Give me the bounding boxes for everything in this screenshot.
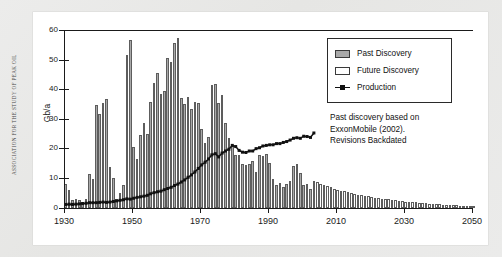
x-tick-mark (200, 208, 201, 213)
x-tick-label: 2030 (384, 216, 424, 226)
bar-future-discovery (333, 189, 336, 208)
bar-past-discovery (180, 98, 183, 208)
bar-future-discovery (313, 181, 316, 208)
bar-future-discovery (377, 198, 380, 208)
bar-future-discovery (384, 199, 387, 208)
bar-past-discovery (214, 84, 217, 208)
bar-past-discovery (299, 173, 302, 208)
bar-future-discovery (353, 194, 356, 208)
bar-past-discovery (241, 164, 244, 208)
legend-swatch-future-discovery (335, 67, 350, 75)
bar-future-discovery (357, 195, 360, 208)
bar-future-discovery (381, 199, 384, 208)
bar-past-discovery (231, 146, 234, 208)
bar-past-discovery (183, 104, 186, 208)
bar-future-discovery (323, 185, 326, 208)
bar-past-discovery (306, 184, 309, 208)
x-tick-mark (268, 208, 269, 213)
bar-past-discovery (200, 129, 203, 208)
bar-past-discovery (163, 91, 166, 208)
bar-future-discovery (360, 195, 363, 208)
y-tick-mark (59, 178, 69, 179)
annotation-line-3: Revisions Backdated (330, 135, 460, 147)
bar-past-discovery (129, 40, 132, 208)
bar-past-discovery (211, 85, 214, 208)
bar-future-discovery (336, 190, 339, 208)
legend-label-future-discovery: Future Discovery (357, 66, 419, 75)
x-tick-label: 1990 (248, 216, 288, 226)
x-tick-mark (132, 208, 133, 213)
bar-past-discovery (156, 73, 159, 208)
y-tick-mark (59, 60, 69, 61)
bar-past-discovery (234, 155, 237, 208)
annotation-line-2: ExxonMobile (2002). (330, 124, 460, 136)
source-annotation: Past discovery based on ExxonMobile (200… (330, 112, 460, 147)
bar-past-discovery (309, 189, 312, 208)
bar-past-discovery (275, 185, 278, 208)
bar-past-discovery (78, 200, 81, 208)
bar-future-discovery (350, 193, 353, 208)
bar-future-discovery (343, 191, 346, 208)
bar-past-discovery (238, 155, 241, 208)
legend-item-past-discovery: Past Discovery (335, 45, 444, 62)
bar-past-discovery (146, 134, 149, 208)
bar-past-discovery (248, 164, 251, 208)
bar-past-discovery (177, 38, 180, 208)
bar-past-discovery (272, 179, 275, 208)
x-tick-mark (404, 208, 405, 213)
x-tick-label: 1930 (44, 216, 84, 226)
bar-past-discovery (289, 181, 292, 208)
bar-past-discovery (115, 199, 118, 208)
y-axis-title: Gb/a (42, 93, 52, 133)
bar-future-discovery (330, 187, 333, 208)
bar-past-discovery (224, 123, 227, 208)
bar-past-discovery (149, 102, 152, 208)
bar-past-discovery (122, 185, 125, 208)
legend: Past Discovery Future Discovery Producti… (327, 38, 452, 103)
x-tick-label: 1950 (112, 216, 152, 226)
y-tick-mark (59, 148, 69, 149)
bar-future-discovery (326, 186, 329, 208)
y-tick-mark (59, 119, 69, 120)
chart-figure: ASSOCIATION FOR THE STUDY OF PEAK OIL 01… (0, 0, 502, 257)
bar-past-discovery (170, 62, 173, 208)
bar-past-discovery (126, 55, 129, 208)
bar-past-discovery (166, 58, 169, 208)
bar-past-discovery (279, 183, 282, 208)
bar-past-discovery (95, 105, 98, 208)
x-tick-mark (472, 208, 473, 213)
bar-past-discovery (143, 123, 146, 208)
bar-past-discovery (119, 193, 122, 208)
bar-future-discovery (367, 196, 370, 208)
bar-past-discovery (105, 99, 108, 208)
x-tick-label: 2050 (452, 216, 492, 226)
bar-past-discovery (68, 190, 71, 208)
legend-swatch-production (335, 84, 350, 92)
bar-past-discovery (160, 94, 163, 208)
bar-past-discovery (296, 164, 299, 208)
bar-past-discovery (258, 155, 261, 208)
y-tick-mark (59, 30, 69, 31)
legend-label-past-discovery: Past Discovery (357, 49, 412, 58)
legend-item-production: Production (335, 79, 444, 96)
y-tick-label: 60 (36, 25, 58, 34)
annotation-line-1: Past discovery based on (330, 112, 460, 124)
y-tick-label: 40 (36, 84, 58, 93)
x-tick-mark (64, 208, 65, 213)
bar-past-discovery (207, 137, 210, 208)
bar-future-discovery (347, 192, 350, 208)
bar-past-discovery (302, 185, 305, 208)
bar-past-discovery (282, 187, 285, 208)
bar-past-discovery (245, 165, 248, 208)
bar-past-discovery (85, 199, 88, 208)
bar-past-discovery (285, 184, 288, 208)
bar-past-discovery (217, 103, 220, 208)
bar-past-discovery (228, 138, 231, 208)
bar-past-discovery (197, 103, 200, 208)
bar-future-discovery (387, 199, 390, 208)
bar-past-discovery (251, 161, 254, 208)
bar-past-discovery (139, 135, 142, 208)
bar-past-discovery (265, 154, 268, 208)
bar-past-discovery (221, 95, 224, 208)
plot-top-rule (64, 30, 473, 31)
